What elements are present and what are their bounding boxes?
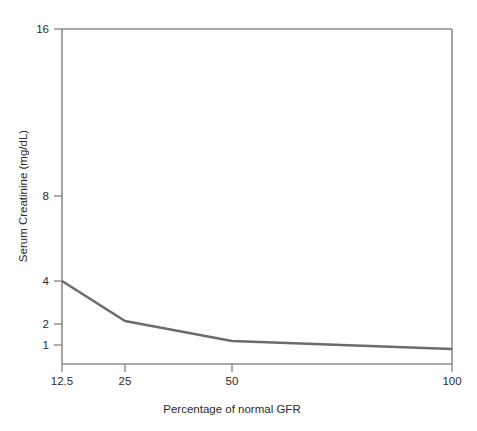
- data-series-line: [62, 281, 452, 349]
- x-tick-label-50: 50: [226, 375, 239, 387]
- plot-frame: [62, 29, 452, 364]
- x-axis-ticks: [62, 364, 452, 372]
- x-tick-label-25: 25: [119, 375, 132, 387]
- y-tick-label-2: 2: [43, 318, 49, 330]
- y-tick-label-4: 4: [43, 275, 50, 287]
- x-tick-label-100: 100: [442, 375, 461, 387]
- y-tick-label-8: 8: [43, 190, 49, 202]
- y-axis-title: Serum Creatinine (mg/dL): [17, 130, 29, 262]
- chart-figure: 16 8 4 2 1 12.5 25 50 100 Percentage of …: [0, 0, 477, 431]
- y-tick-label-16: 16: [36, 23, 49, 35]
- x-axis-title: Percentage of normal GFR: [163, 403, 300, 415]
- serum-creatinine-line-chart: 16 8 4 2 1 12.5 25 50 100 Percentage of …: [0, 0, 477, 431]
- y-axis-ticks: [54, 29, 62, 345]
- x-tick-label-12-5: 12.5: [51, 375, 73, 387]
- y-tick-label-1: 1: [43, 339, 49, 351]
